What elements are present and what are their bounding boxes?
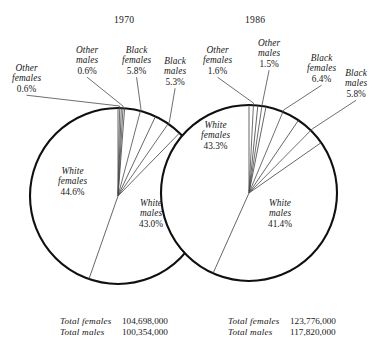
totals-row: Total males 117,820,000	[228, 327, 336, 338]
panel-year-1970: 1970	[114, 14, 134, 25]
slice-label-line1: Black	[345, 68, 367, 78]
slice-label-other-males-1986: Othermales1.5%	[258, 38, 280, 69]
slice-label-line1: Black	[311, 53, 333, 63]
slice-label-line1: White	[204, 120, 226, 130]
slice-label-line2: females	[122, 55, 151, 65]
slice-percent: 5.8%	[345, 89, 367, 99]
slice-label-line2: females	[58, 176, 87, 186]
figure-canvas: 1970 1986 Otherfemales0.6%Othermales0.6%…	[0, 0, 391, 352]
slice-label-line2: females	[203, 55, 232, 65]
totals-1970: Total females 104,698,000 Total males 10…	[60, 316, 168, 339]
slice-label-line2: males	[140, 208, 162, 218]
totals-row: Total females 123,776,000	[228, 316, 336, 327]
slice-percent: 43.0%	[139, 219, 163, 229]
totals-1986: Total females 123,776,000 Total males 11…	[228, 316, 336, 339]
slice-label-line2: males	[76, 55, 98, 65]
slice-label-line1: Other	[206, 45, 228, 55]
panel-year-1986: 1986	[245, 14, 265, 25]
totals-label: Total males	[60, 327, 122, 338]
slice-percent: 1.5%	[258, 59, 280, 69]
slice-label-other-females-1970: Otherfemales0.6%	[12, 63, 41, 94]
slice-label-line2: males	[258, 48, 280, 58]
slice-percent: 5.8%	[122, 66, 151, 76]
slice-label-black-females-1970: Blackfemales5.8%	[122, 45, 151, 76]
slice-label-line2: males	[345, 78, 367, 88]
totals-row: Total females 104,698,000	[60, 316, 168, 327]
slice-label-line1: Other	[15, 63, 37, 73]
totals-value: 117,820,000	[290, 327, 336, 338]
slice-label-other-females-1986: Otherfemales1.6%	[203, 45, 232, 76]
slice-label-line2: females	[201, 130, 230, 140]
slice-label-line1: Black	[164, 56, 186, 66]
slice-percent: 6.4%	[307, 74, 336, 84]
slice-label-line2: males	[269, 208, 291, 218]
slice-label-white-males-1986: Whitemales41.4%	[268, 198, 292, 229]
totals-value: 104,698,000	[122, 316, 168, 327]
slice-label-line2: females	[12, 73, 41, 83]
slice-label-white-females-1986: Whitefemales43.3%	[201, 120, 230, 151]
totals-label: Total females	[228, 316, 290, 327]
totals-label: Total females	[60, 316, 122, 327]
slice-label-line2: males	[164, 66, 186, 76]
slice-label-black-males-1970: Blackmales5.3%	[164, 56, 186, 87]
slice-label-line1: White	[269, 198, 291, 208]
slice-label-white-females-1970: Whitefemales44.6%	[58, 166, 87, 197]
slice-label-white-males-1970: Whitemales43.0%	[139, 198, 163, 229]
slice-label-line2: females	[307, 63, 336, 73]
slice-label-line1: White	[140, 198, 162, 208]
slice-percent: 41.4%	[268, 219, 292, 229]
slice-percent: 1.6%	[203, 66, 232, 76]
slice-label-line1: Black	[126, 45, 148, 55]
totals-value: 123,776,000	[290, 316, 336, 327]
slice-percent: 0.6%	[12, 84, 41, 94]
totals-value: 100,354,000	[122, 327, 168, 338]
slice-label-black-males-1986: Blackmales5.8%	[345, 68, 367, 99]
slice-percent: 0.6%	[76, 66, 98, 76]
slice-label-line1: White	[61, 166, 83, 176]
slice-label-other-males-1970: Othermales0.6%	[76, 45, 98, 76]
slice-label-black-females-1986: Blackfemales6.4%	[307, 53, 336, 84]
slice-label-line1: Other	[258, 38, 280, 48]
slice-percent: 43.3%	[201, 141, 230, 151]
slice-label-line1: Other	[76, 45, 98, 55]
slice-percent: 44.6%	[58, 187, 87, 197]
pie-chart-1986	[161, 70, 356, 281]
slice-percent: 5.3%	[164, 77, 186, 87]
totals-label: Total males	[228, 327, 290, 338]
totals-row: Total males 100,354,000	[60, 327, 168, 338]
